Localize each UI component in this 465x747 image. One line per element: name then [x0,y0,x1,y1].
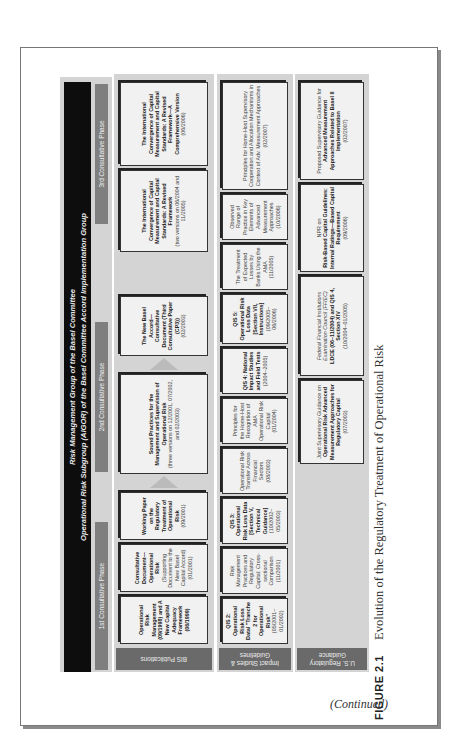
impact-box-qis4: QIS 4: National Impact Studies and Field… [222,348,288,394]
us-box-1: Joint Supervisory Guidance on Operationa… [300,380,364,464]
phase-2-label: 2nd Consultative Phase [95,322,108,472]
caption-text: Evolution of the Regulatory Treatment of… [372,345,386,640]
us-box-2: Federal Financial Institutions Examinati… [300,276,364,376]
bis-box-4: Sound Practices for the Management and S… [120,374,208,474]
figure-caption: FIGURE 2.1 Evolution of the Regulatory T… [372,300,387,720]
committee-header: Risk Management Group of the Basel Commi… [64,82,91,672]
bis-box-3: Working Paper on the Regulatory Treatmen… [120,492,208,540]
row-label-us: U.S. Regulatory Guidance [297,648,367,670]
impact-box-qis2: QIS 2: Operational Risk Loss Data/ "Tran… [222,598,288,644]
impact-box-10: Principles for Home-Host Supervisory Coo… [222,82,288,190]
bis-box-6: The International Convergence of Capital… [120,170,208,252]
bis-box-7: The International Convergence of Capital… [120,82,208,166]
bis-box-2: Consultative Document—Operational Risk (… [120,544,208,592]
bis-box-1: Operational Risk Management (09/1998) an… [120,596,208,644]
impact-box-9: Observed Range of Practice in Key Elemen… [222,194,288,240]
arrow-right-icon [150,358,178,370]
us-box-4: Proposed Supervisory Guidance for Advanc… [300,82,364,180]
impact-box-8: The Treatment of Expected Losses by Bank… [222,244,288,290]
bis-box-5: The New Basel Accord—Consultative Docume… [120,296,208,356]
impact-box-4: Operational Risk Transfer Across Financi… [222,448,288,494]
phase-1-label: 1st Consultative Phase [95,522,108,670]
impact-box-5: Principles for the Home-Host Recognition… [222,398,288,444]
impact-box-qis5: QIS 5: Operational Risk Loss Data [Secti… [222,294,288,344]
impact-box-qis3: QIS 3: Operational Risk Loss Data [Secti… [222,498,288,544]
arrow-right-icon [150,476,178,488]
row-label-bis-text: BIS Publications [116,648,212,670]
us-box-3: NPR on Risk-Based Capital Guidelines: In… [300,184,364,272]
row-label-impact: Impact Studies & Guidelines [219,648,291,670]
figure-diagram: Risk Management Group of the Basel Commi… [60,52,378,672]
impact-box-2: Risk Management Practices and Regulatory… [222,548,288,594]
phase-3-label: 3rd Consultative Phase [95,84,108,224]
continued-label: (Continued) [330,697,388,712]
